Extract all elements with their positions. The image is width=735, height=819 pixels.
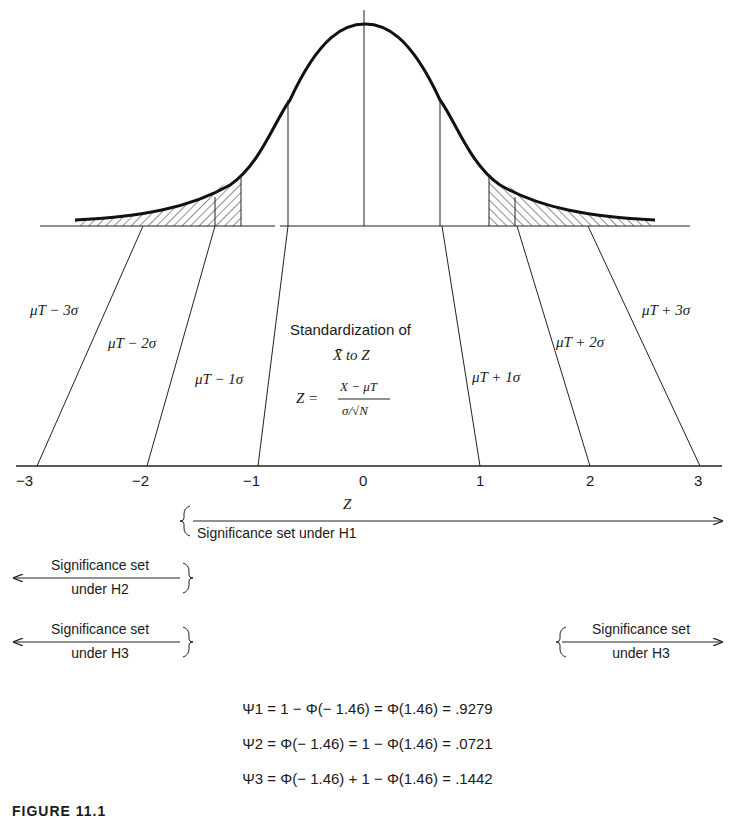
standardization-subtitle: X̄ to Z	[333, 348, 370, 363]
label-mu-minus-2sigma: μT − 2σ	[108, 336, 156, 351]
tick-minus-3: −3	[16, 473, 33, 488]
label-mu-plus-2sigma: μT + 2σ	[556, 335, 604, 350]
standardization-title: Standardization of	[290, 322, 411, 337]
equation-psi3: Ψ3 = Φ(− 1.46) + 1 − Φ(1.46) = .1442	[0, 770, 735, 787]
significance-h2-bottom: under H2	[20, 581, 180, 599]
significance-h3-right-bottom: under H3	[566, 645, 716, 663]
tick-0: 0	[359, 473, 367, 488]
label-mu-minus-3sigma: μT − 3σ	[30, 303, 78, 318]
tick-minus-1: −1	[243, 473, 260, 488]
significance-h1: Significance set under H1	[197, 525, 357, 543]
tick-1: 1	[476, 473, 484, 488]
formula-numerator: X − μT	[340, 380, 377, 393]
tick-minus-2: −2	[132, 473, 149, 488]
axis-label-z: Z	[343, 497, 351, 512]
figure-caption: FIGURE 11.1	[12, 803, 106, 819]
equation-psi1: Ψ1 = 1 − Φ(− 1.46) = Φ(1.46) = .9279	[0, 700, 735, 717]
label-mu-plus-1sigma: μT + 1σ	[472, 370, 520, 385]
tick-3: 3	[694, 473, 702, 488]
significance-h3-left-top: Significance set	[20, 621, 180, 639]
significance-h3-right-top: Significance set	[566, 621, 716, 639]
formula-lhs: Z =	[296, 391, 318, 406]
equation-psi2: Ψ2 = Φ(− 1.46) = 1 − Φ(1.46) = .0721	[0, 735, 735, 752]
label-mu-minus-1sigma: μT − 1σ	[195, 372, 243, 387]
significance-h3-left-bottom: under H3	[20, 645, 180, 663]
label-mu-plus-3sigma: μT + 3σ	[642, 303, 690, 318]
formula-denominator: σ/√N	[342, 404, 368, 417]
significance-h2-top: Significance set	[20, 557, 180, 575]
normal-curve	[75, 24, 655, 220]
tick-2: 2	[586, 473, 594, 488]
